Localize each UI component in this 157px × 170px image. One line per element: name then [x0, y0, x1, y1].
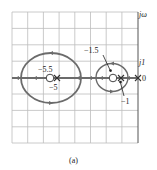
zero-marker-neg5.5 — [46, 74, 54, 82]
label-neg1: −1 — [121, 97, 130, 106]
label-jw: jω — [138, 10, 147, 19]
label-origin: 0 — [142, 74, 146, 83]
leader-neg1.5-dot — [109, 69, 112, 72]
zero-marker-neg1.5 — [109, 74, 117, 82]
root-locus-figure: jω j1 0 −5.5 −5 −1.5 −1 (a) — [0, 0, 157, 170]
leader-neg1-dot — [119, 81, 122, 84]
figure-caption: (a) — [69, 156, 78, 165]
label-j1: j1 — [138, 58, 145, 67]
label-neg5.5: −5.5 — [38, 65, 53, 74]
label-neg1.5: −1.5 — [84, 46, 99, 55]
label-neg5: −5 — [49, 83, 58, 92]
